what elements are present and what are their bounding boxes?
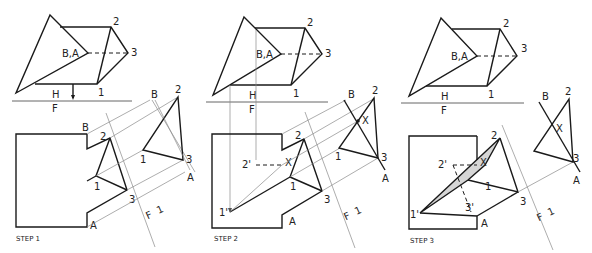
cut-edge xyxy=(420,213,477,216)
label-f: F xyxy=(342,210,352,223)
label-1-prime: 1' xyxy=(410,209,419,220)
arrow-head-icon xyxy=(71,95,75,100)
label-h: H xyxy=(52,89,60,100)
front-view: A 1 2 3 1' 2' 3' X xyxy=(409,130,526,229)
label-a: A xyxy=(187,172,194,183)
label-3: 3 xyxy=(381,152,387,163)
label-a: A xyxy=(289,216,296,227)
label-f: F xyxy=(144,209,154,222)
intersection-point-x xyxy=(356,119,360,123)
aux-view: B 2 3 X A F 1 xyxy=(534,86,580,223)
step-label: STEP 1 xyxy=(16,235,40,243)
label-b: B xyxy=(542,91,549,102)
prism-front-outline xyxy=(16,134,127,227)
label-1: 1 xyxy=(293,88,299,99)
label-edge: B,A xyxy=(256,49,273,60)
label-f: F xyxy=(441,105,447,116)
projection-lines xyxy=(87,97,195,247)
step-label: STEP 3 xyxy=(410,237,434,245)
label-3: 3 xyxy=(521,43,527,54)
label-a: A xyxy=(573,175,580,186)
label-f: F xyxy=(52,103,58,114)
label-1: 1 xyxy=(290,181,296,192)
label-x: X xyxy=(556,123,563,134)
label-3: 3 xyxy=(186,154,192,165)
label-x: X xyxy=(480,157,487,168)
step-label: STEP 2 xyxy=(214,235,238,243)
label-3: 3 xyxy=(131,47,137,58)
aux-view: B 2 3 1 A F 1 xyxy=(140,84,194,221)
label-edge: B,A xyxy=(451,51,468,62)
label-x: X xyxy=(362,115,369,126)
label-h: H xyxy=(249,90,257,101)
label-3: 3 xyxy=(325,48,331,59)
label-3: 3 xyxy=(324,194,330,205)
label-2: 2 xyxy=(100,131,106,142)
front-view: B A 1 2 3 xyxy=(16,122,135,231)
cut-edge-2 xyxy=(477,192,518,216)
label-edge: B,A xyxy=(62,48,79,59)
top-view: B,A 2 3 1 H F xyxy=(401,18,527,116)
label-b: B xyxy=(348,89,355,100)
panel-step-1: B,A 2 3 1 H F B A 1 2 3 xyxy=(12,15,195,247)
label-2-prime: 2' xyxy=(242,159,251,170)
label-1-fold: 1 xyxy=(546,205,556,218)
label-1: 1 xyxy=(485,181,491,192)
projection-lines xyxy=(502,125,573,250)
label-2-prime: 2' xyxy=(438,159,447,170)
label-1-prime: 1' xyxy=(219,207,228,218)
panel-step-3: B,A 2 3 1 H F A 1 2 3 1' 2' 3' X xyxy=(401,18,580,250)
panel-step-2: B,A 2 3 1 H F A 1 2 3 1' 2' X xyxy=(206,17,389,248)
label-2: 2 xyxy=(307,17,313,28)
label-a: A xyxy=(382,173,389,184)
top-view: B,A 2 3 1 H F xyxy=(206,17,331,212)
label-3: 3 xyxy=(129,194,135,205)
top-view: B,A 2 3 1 H F xyxy=(12,15,137,114)
label-2: 2 xyxy=(295,130,301,141)
label-1: 1 xyxy=(140,154,146,165)
label-2: 2 xyxy=(372,85,378,96)
label-1: 1 xyxy=(94,181,100,192)
cut-line xyxy=(230,177,290,212)
label-1: 1 xyxy=(488,89,494,100)
label-b: B xyxy=(82,122,89,133)
label-3-prime: 3' xyxy=(465,202,474,213)
label-1-fold: 1 xyxy=(353,204,363,217)
label-2: 2 xyxy=(113,16,119,27)
label-1-fold: 1 xyxy=(155,203,165,216)
label-1: 1 xyxy=(335,151,341,162)
diagram-canvas: B,A 2 3 1 H F B A 1 2 3 xyxy=(0,0,592,253)
label-3: 3 xyxy=(520,196,526,207)
label-1: 1 xyxy=(98,87,104,98)
label-2: 2 xyxy=(175,84,181,95)
label-2: 2 xyxy=(503,18,509,29)
label-2: 2 xyxy=(565,86,571,97)
label-2: 2 xyxy=(491,130,497,141)
label-a: A xyxy=(481,218,488,229)
prism-edge xyxy=(97,27,111,84)
label-f: F xyxy=(535,211,545,224)
prism-edge xyxy=(487,29,500,86)
prism-front-outline xyxy=(212,134,322,228)
label-b: B xyxy=(151,89,158,100)
label-f: F xyxy=(249,104,255,115)
label-3: 3 xyxy=(573,153,579,164)
plane-front-visible xyxy=(420,138,500,213)
plane-front xyxy=(96,138,127,190)
prism-edge xyxy=(291,28,305,85)
label-h: H xyxy=(441,91,449,102)
plane-aux xyxy=(534,99,573,162)
